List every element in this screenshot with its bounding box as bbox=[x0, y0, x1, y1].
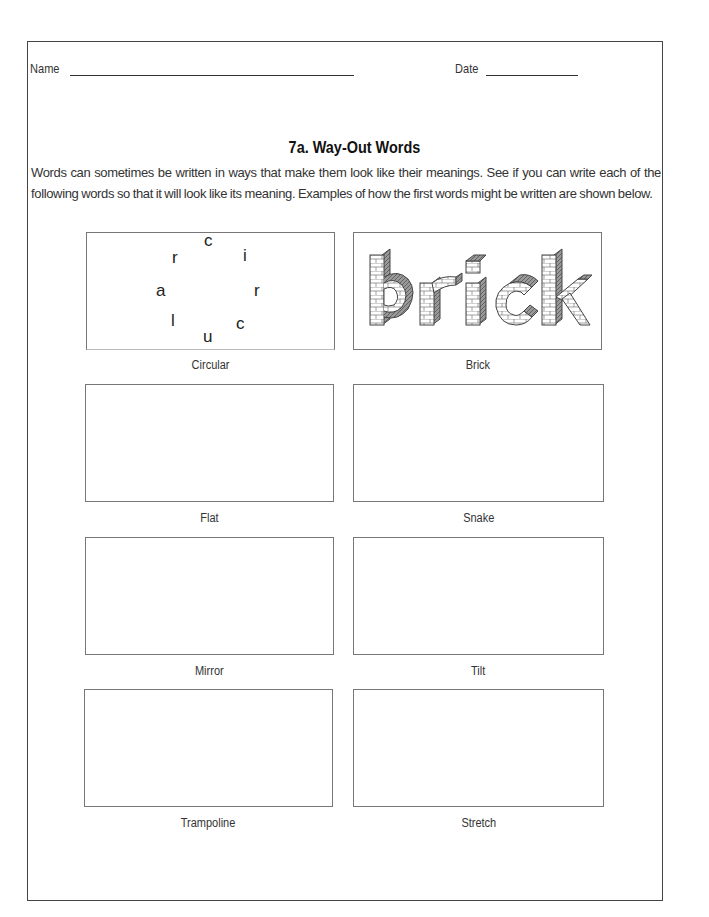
drawing-box-flat[interactable] bbox=[85, 384, 334, 502]
caption-stretch: Stretch bbox=[353, 816, 604, 830]
date-line[interactable] bbox=[486, 75, 578, 76]
page-title: 7a. Way-Out Words bbox=[0, 138, 709, 158]
caption-circular: Circular bbox=[86, 358, 335, 372]
circular-letter: c bbox=[236, 314, 245, 334]
caption-mirror: Mirror bbox=[85, 664, 334, 678]
circular-letter: l bbox=[171, 311, 175, 331]
drawing-box-mirror[interactable] bbox=[85, 537, 334, 655]
drawing-box-snake[interactable] bbox=[353, 384, 604, 502]
caption-tilt: Tilt bbox=[353, 664, 604, 678]
drawing-box-tilt[interactable] bbox=[353, 537, 604, 655]
name-label: Name bbox=[30, 61, 59, 76]
caption-brick: Brick bbox=[353, 358, 602, 372]
circular-letter: u bbox=[203, 327, 212, 347]
drawing-box-trampoline[interactable] bbox=[84, 689, 333, 807]
example-box-brick bbox=[353, 232, 602, 350]
circular-letter: a bbox=[156, 281, 165, 301]
example-box-circular: c i r c u l a r bbox=[86, 232, 335, 350]
caption-snake: Snake bbox=[353, 511, 604, 525]
date-label: Date bbox=[455, 61, 478, 76]
circular-letter: i bbox=[243, 246, 247, 266]
name-line[interactable] bbox=[70, 75, 354, 76]
circular-letter: c bbox=[204, 231, 213, 251]
caption-flat: Flat bbox=[85, 511, 334, 525]
brick-lettering-illustration bbox=[364, 247, 592, 337]
circular-letter: r bbox=[172, 248, 178, 268]
circular-letter: r bbox=[254, 281, 260, 301]
caption-trampoline: Trampoline bbox=[84, 816, 333, 830]
instructions-text: Words can sometimes be written in ways t… bbox=[31, 162, 661, 204]
drawing-box-stretch[interactable] bbox=[353, 689, 604, 807]
